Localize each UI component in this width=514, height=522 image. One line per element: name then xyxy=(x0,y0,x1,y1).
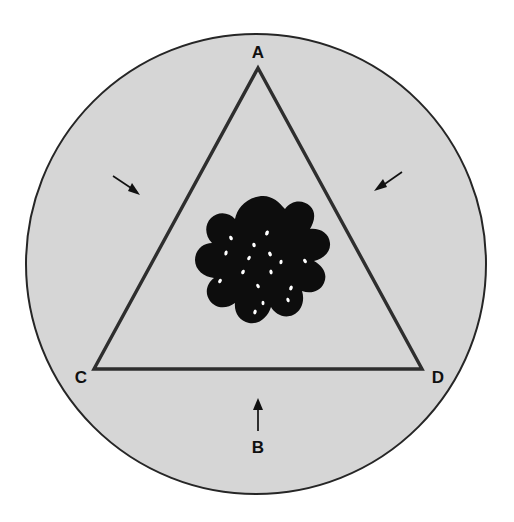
label-c: C xyxy=(75,368,87,387)
label-b: B xyxy=(252,438,264,457)
figure-container: A B C D xyxy=(0,0,514,522)
label-d: D xyxy=(432,368,444,387)
label-a: A xyxy=(252,43,264,62)
diagram-svg: A B C D xyxy=(0,0,514,522)
